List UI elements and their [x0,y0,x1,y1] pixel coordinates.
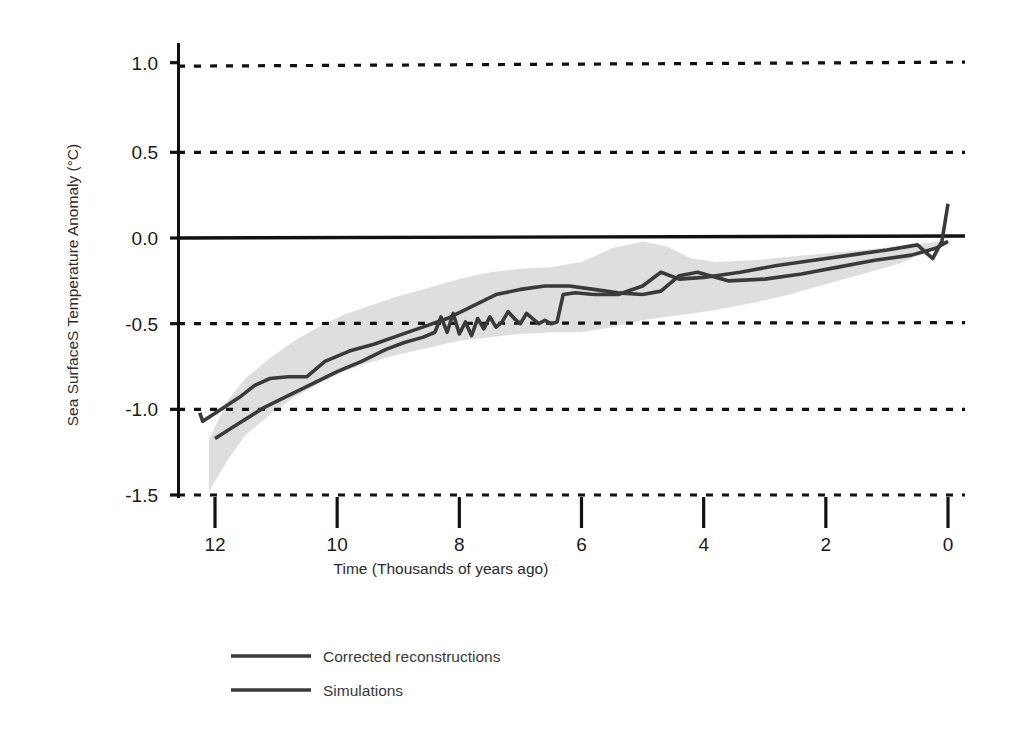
x-axis-tick-label: 8 [454,534,465,555]
x-axis-tick-label: 4 [698,534,709,555]
y-axis-tick-label: 1.0 [132,53,158,74]
x-axis-tick-label: 2 [821,534,832,555]
sea-surface-temperature-anomaly-chart: 1.00.50.0-0.5-1.0-1.5 121086420 Sea Surf… [0,0,1009,731]
x-axis-tick-label: 10 [327,534,348,555]
legend-label: Simulations [323,682,403,699]
legend-label: Corrected reconstructions [323,648,501,665]
chart-background [0,0,1009,731]
y-axis-tick-label: 0.5 [132,142,158,163]
zero-reference-line [178,236,965,238]
y-axis-tick-label: 0.0 [132,228,158,249]
y-axis-tick-label: -0.5 [125,314,158,335]
y-axis-tick-label: -1.0 [125,399,158,420]
x-axis-tick-label: 0 [943,534,954,555]
y-axis-tick-label: -1.5 [125,485,158,506]
y-axis-title: Sea SurfaceS Temperature Anomaly (°C) [64,144,81,426]
x-axis-title: Time (Thousands of years ago) [334,560,549,577]
x-axis-tick-label: 12 [204,534,225,555]
x-axis-tick-label: 6 [576,534,587,555]
chart-figure: 1.00.50.0-0.5-1.0-1.5 121086420 Sea Surf… [0,0,1009,731]
